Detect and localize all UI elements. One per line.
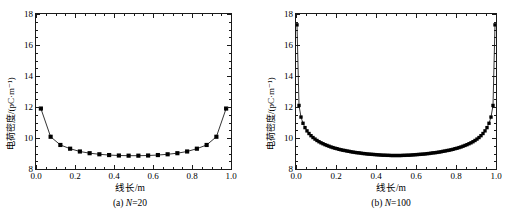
axis-tick (36, 30, 38, 31)
axis-tick (229, 22, 231, 23)
axis-tick (326, 167, 327, 169)
axis-tick (326, 14, 327, 16)
axis-tick (492, 45, 496, 46)
axis-tick (104, 167, 105, 169)
axis-tick (134, 14, 135, 16)
axis-tick (396, 14, 397, 16)
axis-tick (229, 115, 231, 116)
axis-tick (36, 169, 40, 170)
axis-tick (496, 14, 497, 18)
axis-tick (173, 14, 174, 16)
axis-tick (36, 84, 38, 85)
axis-tick (476, 167, 477, 169)
axis-tick (36, 14, 37, 18)
axis-tick (56, 167, 57, 169)
axis-tick (36, 138, 40, 139)
axis-tick (227, 107, 231, 108)
axis-tick (36, 92, 38, 93)
axis-tick (296, 76, 300, 77)
data-curve-a (36, 14, 231, 169)
axis-tick (494, 123, 496, 124)
axis-tick (227, 138, 231, 139)
axis-tick (46, 14, 47, 16)
axis-tick (229, 84, 231, 85)
y-tick-label: 10 (284, 134, 293, 143)
figure-container: 810121416180.00.20.40.60.81.0 线长/m 电荷密度/… (0, 0, 521, 220)
axis-tick (229, 30, 231, 31)
y-tick-label: 14 (24, 72, 33, 81)
axis-tick (296, 30, 298, 31)
plot-frame-a: 810121416180.00.20.40.60.81.0 (35, 13, 232, 170)
axis-tick (486, 167, 487, 169)
axis-tick (221, 14, 222, 16)
axis-tick (376, 14, 377, 18)
axis-tick (296, 123, 298, 124)
axis-tick (476, 14, 477, 16)
axis-tick (296, 165, 297, 169)
axis-tick (296, 53, 298, 54)
axis-tick (36, 22, 38, 23)
panel-caption-a-suffix: =20 (132, 198, 147, 208)
x-tick-label: 0.4 (108, 172, 119, 181)
axis-tick (406, 167, 407, 169)
axis-tick (296, 92, 298, 93)
axis-tick (229, 68, 231, 69)
axis-tick (229, 61, 231, 62)
axis-tick (446, 14, 447, 16)
axis-tick (296, 37, 298, 38)
axis-tick (336, 14, 337, 18)
axis-tick (296, 169, 300, 170)
y-tick-label: 12 (24, 103, 33, 112)
axis-tick (95, 167, 96, 169)
axis-tick (36, 61, 38, 62)
axis-tick (346, 14, 347, 16)
axis-tick (36, 130, 38, 131)
plot-frame-b: 810121416180.00.20.40.60.81.0 (295, 13, 497, 170)
plot-area-b (296, 14, 496, 169)
axis-tick (221, 167, 222, 169)
x-tick-label: 1.0 (225, 172, 236, 181)
axis-tick (229, 154, 231, 155)
axis-tick (153, 165, 154, 169)
panel-caption-b: (b) N=100 (261, 198, 521, 209)
axis-tick (202, 14, 203, 16)
axis-tick (182, 14, 183, 16)
axis-tick (296, 107, 300, 108)
axis-tick (386, 167, 387, 169)
axis-tick (212, 14, 213, 16)
axis-tick (296, 99, 298, 100)
axis-tick (229, 123, 231, 124)
axis-tick (486, 14, 487, 16)
axis-tick (134, 167, 135, 169)
axis-tick (36, 76, 40, 77)
axis-tick (36, 53, 38, 54)
axis-tick (229, 146, 231, 147)
x-tick-label: 1.0 (490, 172, 501, 181)
y-axis-title-a: 电荷密度/(pC·m⁻¹) (6, 77, 16, 150)
axis-tick (494, 146, 496, 147)
axis-tick (231, 165, 232, 169)
chart-panel-a: 810121416180.00.20.40.60.81.0 线长/m 电荷密度/… (0, 0, 260, 220)
axis-tick (494, 84, 496, 85)
y-tick-label: 10 (24, 134, 33, 143)
axis-tick (36, 107, 40, 108)
axis-tick (229, 37, 231, 38)
x-tick-label: 0.6 (410, 172, 421, 181)
axis-tick (163, 167, 164, 169)
axis-tick (306, 14, 307, 16)
axis-tick (494, 53, 496, 54)
axis-tick (202, 167, 203, 169)
axis-tick (446, 167, 447, 169)
axis-tick (356, 167, 357, 169)
axis-tick (296, 22, 298, 23)
axis-tick (36, 161, 38, 162)
axis-tick (416, 14, 417, 18)
axis-tick (366, 14, 367, 16)
axis-tick (124, 167, 125, 169)
axis-tick (494, 161, 496, 162)
axis-tick (386, 14, 387, 16)
axis-tick (426, 14, 427, 16)
x-axis-title-b: 线长/m (261, 183, 521, 194)
axis-tick (492, 76, 496, 77)
axis-tick (36, 165, 37, 169)
